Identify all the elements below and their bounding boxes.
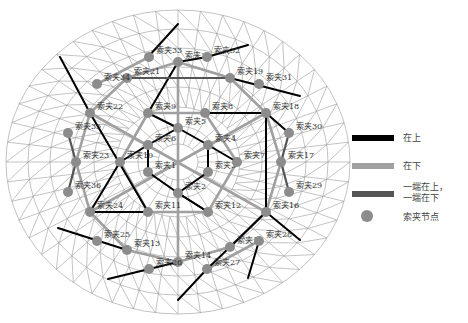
clamp-node-label: 索夹9 xyxy=(155,101,176,111)
clamp-node-label: 索夹18 xyxy=(273,101,299,111)
clamp-node-icon xyxy=(284,128,294,138)
clamp-node-label: 索夹8 xyxy=(212,101,233,111)
clamp-node-icon xyxy=(115,157,125,167)
legend-label-upper: 在上 xyxy=(403,133,421,143)
clamp-node-icon xyxy=(122,245,132,255)
clamp-node-label: 索夹14 xyxy=(185,250,211,260)
clamp-node-icon xyxy=(85,207,95,217)
clamp-node-icon xyxy=(173,188,183,198)
clamp-node-icon xyxy=(63,128,73,138)
clamp-node-icon xyxy=(85,108,95,118)
clamp-node-icon xyxy=(254,236,264,246)
clamp-node: 索夹7 xyxy=(232,150,265,167)
clamp-node-icon xyxy=(225,242,235,252)
legend-label-mixed-2: 一端在下 xyxy=(403,193,439,203)
clamp-node-label: 索夹28 xyxy=(266,229,292,239)
clamp-node-label: 索夹29 xyxy=(296,180,322,190)
clamp-node-icon xyxy=(71,157,81,167)
clamp-node: 索夹25 xyxy=(92,229,130,246)
clamp-node: 索夹30 xyxy=(284,121,322,138)
clamp-node: 索夹26 xyxy=(144,257,182,274)
legend-label-mixed-1: 一端在上， xyxy=(403,182,448,192)
clamp-node-icon xyxy=(92,236,102,246)
legend-item-node: 索夹节点 xyxy=(350,208,468,230)
clamp-node-icon xyxy=(144,52,154,62)
clamp-node-label: 索夹36 xyxy=(75,180,101,190)
clamp-node-label: 索夹1 xyxy=(155,160,176,170)
clamp-node: 索夹24 xyxy=(85,200,123,217)
clamp-node-label: 索夹24 xyxy=(97,200,123,210)
clamp-node-label: 索夹27 xyxy=(214,257,240,267)
clamp-node-icon xyxy=(202,264,212,274)
upper-cable-swatch xyxy=(352,135,394,141)
clamp-node-label: 索夹6 xyxy=(155,133,176,143)
clamp-node: 索夹17 xyxy=(276,150,314,167)
legend-item-mixed: 一端在上， 一端在下 xyxy=(350,182,468,208)
clamp-node-label: 索夹23 xyxy=(83,150,109,160)
clamp-node-label: 索夹4 xyxy=(215,133,236,143)
clamp-node-icon xyxy=(63,187,73,197)
clamp-node: 索夹35 xyxy=(63,121,101,138)
clamp-node: 索夹28 xyxy=(254,229,292,246)
legend-label-lower: 在下 xyxy=(403,161,421,171)
clamp-node-label: 索夹30 xyxy=(296,121,322,131)
clamp-node-icon xyxy=(254,79,264,89)
clamp-node-label: 索夹12 xyxy=(215,200,241,210)
clamp-node-icon xyxy=(261,207,271,217)
clamp-node: 索夹18 xyxy=(261,101,299,118)
clamp-node-label: 索夹2 xyxy=(185,181,206,191)
clamp-node: 索夹36 xyxy=(63,180,101,197)
lower-cable-swatch xyxy=(352,163,394,169)
legend: 在上 在下 一端在上， 一端在下 索夹节点 xyxy=(350,128,468,230)
legend-label-node: 索夹节点 xyxy=(403,212,439,222)
clamp-node-icon xyxy=(203,140,213,150)
clamp-node-label: 索夹21 xyxy=(134,66,160,76)
clamp-node-icon xyxy=(276,157,286,167)
clamp-node: 索夹9 xyxy=(143,101,176,118)
clamp-node-label: 索夹10 xyxy=(127,150,153,160)
clamp-node-label: 索夹22 xyxy=(97,101,123,111)
clamp-node-icon xyxy=(203,207,213,217)
clamp-node-icon xyxy=(143,140,153,150)
clamp-node-icon xyxy=(225,73,235,83)
clamp-node: 索夹29 xyxy=(284,180,322,197)
clamp-node-icon xyxy=(173,123,183,133)
clamp-node-icon xyxy=(200,108,210,118)
mixed-cable-swatch xyxy=(352,191,394,197)
clamp-node-icon xyxy=(143,167,153,177)
clamp-node-icon xyxy=(232,157,242,167)
clamp-node-label: 索夹13 xyxy=(134,238,160,248)
clamp-node-icon xyxy=(203,167,213,177)
clamp-node-icon xyxy=(261,108,271,118)
clamp-node-icon xyxy=(143,207,153,217)
clamp-node-icon xyxy=(361,210,373,222)
clamp-node-label: 索夹25 xyxy=(104,229,130,239)
clamp-node-label: 索夹7 xyxy=(244,150,265,160)
clamp-node-label: 索夹16 xyxy=(273,200,299,210)
clamp-node-icon xyxy=(92,79,102,89)
clamp-node-icon xyxy=(202,52,212,62)
clamp-node-icon xyxy=(144,264,154,274)
clamp-node-label: 索夹26 xyxy=(156,257,182,267)
clamp-node-label: 索夹33 xyxy=(156,45,182,55)
clamp-node-label: 索夹35 xyxy=(75,121,101,131)
clamp-node-label: 索夹31 xyxy=(266,72,292,82)
clamp-node-label: 索夹11 xyxy=(155,200,181,210)
clamp-node-label: 索夹19 xyxy=(237,66,263,76)
clamp-node-label: 索夹32 xyxy=(214,45,240,55)
clamp-node-icon xyxy=(173,57,183,67)
clamp-node-label: 索夹17 xyxy=(288,150,314,160)
clamp-node-icon xyxy=(143,108,153,118)
clamp-node-label: 索夹34 xyxy=(104,72,130,82)
legend-item-lower: 在下 xyxy=(350,156,468,178)
clamp-node-icon xyxy=(284,187,294,197)
clamp-node: 索夹22 xyxy=(85,101,123,118)
legend-item-upper: 在上 xyxy=(350,128,468,150)
